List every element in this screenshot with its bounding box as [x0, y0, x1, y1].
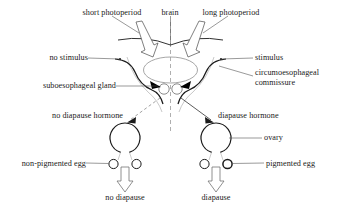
label-stimulus: stimulus: [255, 53, 283, 63]
diagram-artwork: [0, 0, 341, 206]
no-diapause-hormone-arrow-shaft: [130, 98, 160, 120]
label-non-pigmented-egg: non-pigmented egg: [22, 159, 86, 169]
label-long-photoperiod: long photoperiod: [203, 8, 260, 18]
label-brain: brain: [161, 8, 178, 18]
no-diapause-outcome-arrow: [117, 167, 133, 192]
no-diapause-hormone-arrowhead: [127, 117, 136, 124]
head-capsule-left: [127, 57, 162, 112]
label-suboesophageal-gland: suboesophageal gland: [43, 81, 116, 91]
label-no-diapause-hormone: no diapause hormone: [52, 111, 123, 121]
leader-circumoesophageal-commissure: [219, 66, 253, 76]
pigmented-egg-1: [200, 159, 209, 168]
short-photoperiod-arrow: [136, 21, 158, 57]
oviduct-left-a: [118, 153, 121, 161]
pigmented-egg-2: [223, 159, 232, 168]
suboesophageal-gland-left: [159, 84, 169, 94]
long-photoperiod-arrow: [183, 21, 205, 57]
diapause-photoperiod-diagram: short photoperiod brain long photoperiod…: [0, 0, 341, 206]
label-no-stimulus: no stimulus: [49, 53, 88, 63]
suboesophageal-gland-right: [172, 84, 182, 94]
label-circumoesophageal-commissure-line1: circumoesophageal: [255, 68, 319, 78]
label-ovary: ovary: [264, 133, 283, 143]
diapause-hormone-arrow-shaft: [181, 98, 211, 120]
label-diapause: diapause: [201, 193, 230, 203]
oviduct-right-b: [221, 153, 224, 161]
ovary-left: [110, 123, 140, 152]
label-short-photoperiod: short photoperiod: [83, 8, 142, 18]
ovary-right: [201, 123, 231, 152]
diapause-hormone-arrowhead: [205, 117, 214, 124]
label-pigmented-egg: pigmented egg: [266, 159, 315, 169]
leader-non-pigmented-egg: [86, 163, 109, 164]
diapause-outcome-arrow: [208, 167, 224, 192]
leader-pigmented-egg: [233, 163, 265, 164]
leader-short-photoperiod: [112, 16, 139, 33]
label-no-diapause: no diapause: [105, 193, 144, 203]
label-circumoesophageal-commissure-line2: commissure: [255, 78, 295, 88]
label-diapause-hormone: diapause hormone: [218, 111, 279, 121]
oviduct-right-a: [209, 153, 212, 161]
non-pigmented-egg-1: [109, 159, 118, 168]
leader-long-photoperiod: [203, 16, 228, 33]
non-pigmented-egg-2: [132, 159, 141, 168]
head-capsule-right: [179, 57, 214, 112]
oviduct-left-b: [130, 153, 133, 161]
